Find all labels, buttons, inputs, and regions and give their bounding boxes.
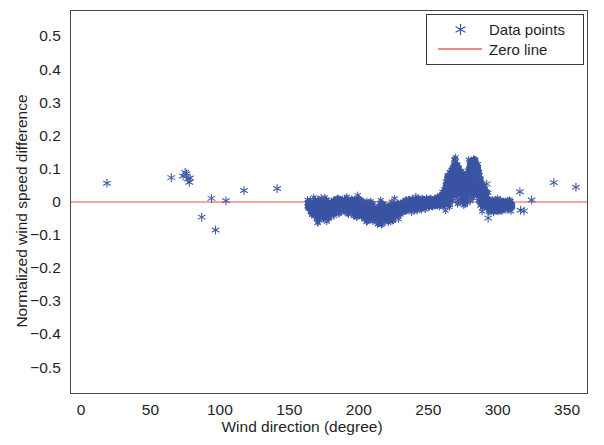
scatter-plot-canvas: [71, 11, 587, 393]
y-tick-label: 0.3: [39, 94, 61, 112]
x-tick-label: 150: [276, 401, 302, 419]
legend-entry-data-points: Data points: [433, 19, 577, 39]
plot-area: [70, 10, 588, 394]
y-tick-label: −0.4: [30, 325, 61, 343]
asterisk-marker-icon: [433, 23, 487, 36]
y-tick-label: 0: [52, 193, 61, 211]
x-axis-title: Wind direction (degree): [0, 418, 604, 436]
y-tick-label: −0.2: [30, 259, 61, 277]
legend-entry-zero-line: Zero line: [433, 39, 577, 59]
x-tick-label: 200: [346, 401, 372, 419]
figure-container: −0.5−0.4−0.3−0.2−0.100.10.20.30.40.5 050…: [0, 0, 604, 445]
legend: Data points Zero line: [426, 14, 584, 65]
y-axis-title: Normalized wind speed difference: [13, 31, 31, 391]
x-tick-label: 50: [142, 401, 159, 419]
y-tick-label: 0.4: [39, 61, 61, 79]
data-point-markers: [104, 154, 580, 234]
y-tick-label: −0.5: [30, 359, 61, 377]
x-tick-label: 100: [207, 401, 233, 419]
x-tick-label: 300: [485, 401, 511, 419]
legend-label-zero-line: Zero line: [487, 41, 547, 58]
y-tick-label: 0.1: [39, 160, 61, 178]
y-tick-label: 0.5: [39, 27, 61, 45]
x-tick-label: 0: [77, 401, 86, 419]
legend-label-data-points: Data points: [487, 21, 565, 38]
line-swatch-icon: [433, 48, 487, 50]
x-tick-label: 250: [415, 401, 441, 419]
y-tick-label: −0.3: [30, 292, 61, 310]
x-tick-label: 350: [554, 401, 580, 419]
y-tick-label: −0.1: [30, 226, 61, 244]
y-tick-label: 0.2: [39, 127, 61, 145]
